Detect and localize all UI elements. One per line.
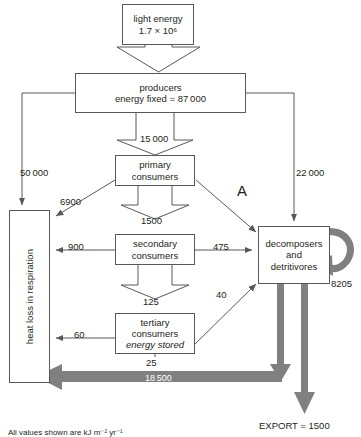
flow-label-decomposers-to-heat-loss: 18 500 xyxy=(145,374,172,383)
node-producers-line-2: energy fixed = 87 000 xyxy=(115,93,206,104)
arrow-decomposers-to-export xyxy=(294,284,315,414)
node-primary-consumers: primary consumers xyxy=(115,155,195,186)
node-secondary-consumers-line-1: secondary xyxy=(133,238,177,249)
node-tertiary-consumers-line-1: tertiary xyxy=(140,317,169,328)
flow-label-tertiary-to-heat-loss: 60 xyxy=(74,330,85,340)
node-decomposers-line-2: and xyxy=(286,249,302,260)
flow-label-producers-to-primary: 15 000 xyxy=(140,134,168,144)
node-decomposers: decomposers and detritivores xyxy=(258,226,330,284)
flow-label-producers-to-heat-loss: 50 000 xyxy=(20,168,48,178)
flow-label-secondary-to-decomposers: 475 xyxy=(213,242,229,252)
flow-label-decomposers-self-loop: 8205 xyxy=(331,279,352,289)
node-light-energy-line-2: 1.7 × 10⁶ xyxy=(139,25,178,36)
arrow-producers-to-heat-loss xyxy=(22,93,75,205)
node-producers: producers energy fixed = 87 000 xyxy=(75,73,246,113)
diagram-caption: All values shown are kJ m⁻² yr⁻¹ xyxy=(8,428,123,437)
node-secondary-consumers-line-2: consumers xyxy=(132,250,178,261)
flow-label-tertiary-to-decomposers: 40 xyxy=(216,290,227,300)
node-light-energy-line-1: light energy xyxy=(133,13,182,24)
flow-label-producers-to-decomposers: 22 000 xyxy=(296,168,324,178)
flow-arrows-layer xyxy=(0,0,361,437)
flow-label-primary-to-heat-loss: 6900 xyxy=(60,197,81,207)
flow-label-secondary-to-heat-loss: 900 xyxy=(68,242,84,252)
node-heat-loss-label: heat loss in respiration xyxy=(24,249,35,344)
node-primary-consumers-line-2: consumers xyxy=(132,171,178,182)
node-tertiary-consumers-line-2: consumers xyxy=(132,328,178,339)
arrow-light-to-producers xyxy=(117,45,200,72)
node-tertiary-consumers: tertiary consumers energy stored xyxy=(115,313,195,354)
node-primary-consumers-line-1: primary xyxy=(139,159,171,170)
flow-label-export: EXPORT = 1500 xyxy=(259,421,330,431)
node-heat-loss-in-respiration: heat loss in respiration xyxy=(9,210,50,383)
node-secondary-consumers: secondary consumers xyxy=(115,234,195,265)
flow-label-tertiary-energy-stored: 25 xyxy=(146,358,157,368)
flow-label-secondary-to-tertiary: 125 xyxy=(143,297,159,307)
node-light-energy: light energy 1.7 × 10⁶ xyxy=(122,4,194,45)
node-decomposers-line-1: decomposers xyxy=(265,238,322,249)
flow-label-primary-to-secondary: 1500 xyxy=(141,216,162,226)
node-producers-line-1: producers xyxy=(139,82,181,93)
arrow-producers-to-decomposers xyxy=(246,93,294,221)
annotation-label-a: A xyxy=(237,183,247,198)
energy-flow-diagram: light energy 1.7 × 10⁶ producers energy … xyxy=(0,0,361,437)
node-decomposers-line-3: detritivores xyxy=(271,261,317,272)
arrow-secondary-to-tertiary xyxy=(121,265,189,299)
node-tertiary-consumers-line-3: energy stored xyxy=(126,339,184,350)
